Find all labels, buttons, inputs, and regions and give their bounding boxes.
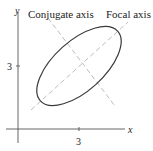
ellipse-diagram: Conjugate axis Focal axis y x 3 3: [0, 0, 153, 151]
y-tick-label: 3: [7, 61, 12, 72]
conjugate-axis-label: Conjugate axis: [28, 8, 94, 20]
x-axis-label: x: [127, 124, 133, 135]
x-tick-label: 3: [76, 136, 81, 147]
y-axis-label: y: [14, 5, 20, 16]
conjugate-axis-line: [48, 18, 115, 106]
focal-axis-label: Focal axis: [106, 8, 151, 20]
